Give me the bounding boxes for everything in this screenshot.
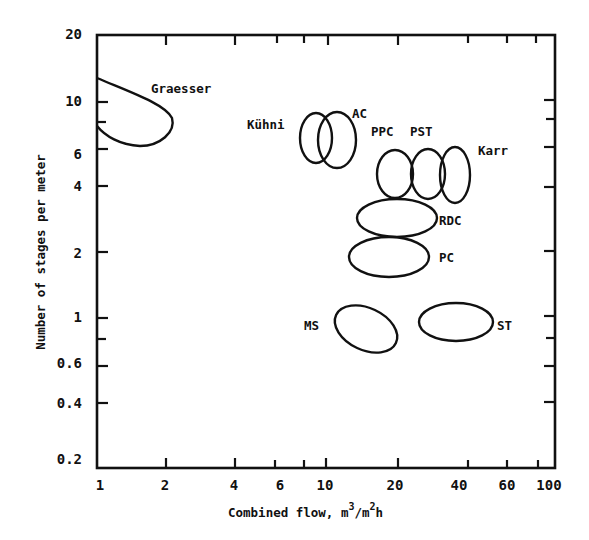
chart-canvas: 20 10 6 4 2 1 0.6 0.4 0.2 1 2 4 6 10 20 … [0, 0, 589, 540]
label-karr: Karr [478, 143, 509, 158]
region-kuhni [300, 113, 332, 163]
x-tick-label: 4 [230, 477, 238, 493]
region-ms [327, 296, 405, 362]
x-tick-label: 10 [317, 477, 334, 493]
x-tick-label: 40 [451, 477, 468, 493]
x-tick-label: 60 [499, 477, 516, 493]
y-axis-title: Number of stages per meter [33, 154, 48, 350]
x-axis-title: Combined flow, m3/m2h [228, 501, 383, 520]
label-ms: MS [304, 318, 319, 333]
x-tick-labels: 1 2 4 6 10 20 40 60 100 [96, 477, 562, 493]
y-tick-label: 6 [74, 146, 82, 162]
y-tick-label: 0.2 [57, 451, 82, 467]
x-axis-ticks-bottom [166, 458, 538, 468]
label-ac: AC [352, 106, 367, 121]
y-axis-ticks-right [544, 100, 555, 402]
region-ac [318, 112, 356, 168]
y-tick-label: 2 [74, 245, 82, 261]
region-pc [349, 237, 429, 277]
label-graesser: Graesser [151, 81, 212, 96]
region-rdc [357, 199, 437, 237]
x-axis-ticks-top [166, 35, 536, 45]
y-tick-label: 4 [74, 178, 82, 194]
label-kuhni: Kühni [247, 117, 285, 132]
label-st: ST [497, 318, 512, 333]
label-rdc: RDC [439, 213, 462, 228]
label-ppc: PPC [371, 124, 394, 139]
y-tick-label: 0.6 [57, 355, 82, 371]
x-tick-label: 6 [276, 477, 284, 493]
plot-frame [97, 35, 555, 468]
region-ppc [377, 150, 413, 198]
label-pst: PST [410, 124, 433, 139]
x-tick-label: 2 [161, 477, 169, 493]
y-tick-label: 20 [65, 26, 82, 42]
y-tick-labels: 20 10 6 4 2 1 0.6 0.4 0.2 [57, 26, 82, 467]
x-tick-label: 20 [387, 477, 404, 493]
x-tick-label: 100 [536, 477, 561, 493]
y-axis-ticks-left [97, 102, 108, 403]
y-tick-label: 10 [65, 93, 82, 109]
region-st [419, 303, 493, 341]
y-tick-label: 0.4 [57, 395, 82, 411]
label-pc: PC [439, 250, 454, 265]
y-tick-label: 1 [74, 309, 82, 325]
x-tick-label: 1 [96, 477, 104, 493]
